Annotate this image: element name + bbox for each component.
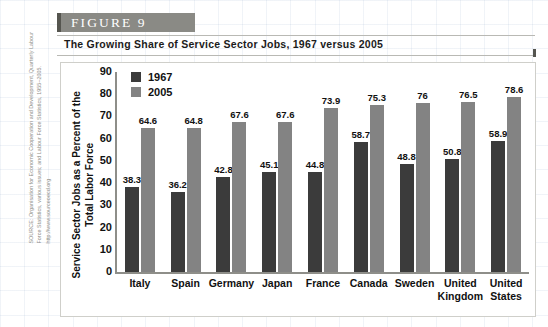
- bar-group: 42.867.6: [216, 72, 246, 272]
- bar-france-2005: [324, 108, 338, 272]
- bar-value-italy-2005: 64.6: [133, 115, 163, 126]
- bar-japan-1967: [262, 172, 276, 272]
- y-axis-tick-40: 40: [86, 176, 112, 188]
- bar-value-spain-2005: 64.8: [179, 115, 209, 126]
- bar-italy-1967: [125, 187, 139, 272]
- bar-spain-2005: [187, 128, 201, 272]
- bar-united-kingdom-1967: [445, 159, 459, 272]
- y-axis-tick-70: 70: [86, 109, 112, 121]
- bar-japan-2005: [278, 122, 292, 272]
- bar-value-japan-2005: 67.6: [270, 109, 300, 120]
- y-axis-tick-10: 10: [86, 243, 112, 255]
- bar-value-united-kingdom-2005: 76.5: [453, 89, 483, 100]
- bar-sweden-1967: [400, 164, 414, 272]
- bar-group: 58.978.6: [491, 72, 521, 272]
- bar-group: 38.364.6: [125, 72, 155, 272]
- x-axis-line: [115, 272, 529, 274]
- bar-group: 44.873.9: [308, 72, 338, 272]
- bar-canada-1967: [354, 142, 368, 272]
- bar-group: 45.167.6: [262, 72, 292, 272]
- bar-united-kingdom-2005: [461, 102, 475, 272]
- bar-spain-1967: [171, 192, 185, 272]
- bar-value-united-states-2005: 78.6: [499, 84, 529, 95]
- bar-value-france-2005: 73.9: [316, 95, 346, 106]
- y-axis-tick-30: 30: [86, 198, 112, 210]
- y-axis-tick-80: 80: [86, 87, 112, 99]
- y-axis-tick-90: 90: [86, 65, 112, 77]
- source-note: SOURCE: Organisation for Economic Cooper…: [27, 32, 52, 244]
- bar-group: 50.876.5: [445, 72, 475, 272]
- bar-sweden-2005: [416, 103, 430, 272]
- bar-germany-1967: [216, 177, 230, 272]
- figure-root: FIGURE 9 The Growing Share of Service Se…: [0, 0, 548, 327]
- title-rule-bottom: [57, 55, 535, 56]
- bar-group: 36.264.8: [171, 72, 201, 272]
- figure-banner: FIGURE 9: [57, 13, 195, 32]
- y-axis-tick-20: 20: [86, 221, 112, 233]
- bar-group: 48.876: [400, 72, 430, 272]
- title-rule-endcap: [533, 49, 536, 57]
- bar-italy-2005: [141, 128, 155, 272]
- bar-united-states-1967: [491, 141, 505, 272]
- y-axis-tick-0: 0: [86, 265, 112, 277]
- bar-united-states-2005: [507, 97, 521, 272]
- bar-germany-2005: [232, 122, 246, 272]
- bar-france-1967: [308, 172, 322, 272]
- bar-value-canada-2005: 75.3: [362, 92, 392, 103]
- bar-canada-2005: [370, 105, 384, 272]
- x-label-line: States: [479, 290, 533, 303]
- y-axis-tick-50: 50: [86, 154, 112, 166]
- bar-value-sweden-2005: 76: [408, 90, 438, 101]
- y-axis-tick-60: 60: [86, 132, 112, 144]
- bar-group: 58.775.3: [354, 72, 384, 272]
- figure-banner-label: FIGURE 9: [71, 15, 147, 31]
- figure-title: The Growing Share of Service Sector Jobs…: [64, 38, 383, 50]
- bar-value-germany-2005: 67.6: [224, 109, 254, 120]
- plot-area: 38.364.636.264.842.867.645.167.644.873.9…: [117, 72, 529, 272]
- title-rule-top: [57, 35, 535, 36]
- x-label-line: United: [479, 277, 533, 290]
- x-label-united-states: UnitedStates: [479, 277, 533, 303]
